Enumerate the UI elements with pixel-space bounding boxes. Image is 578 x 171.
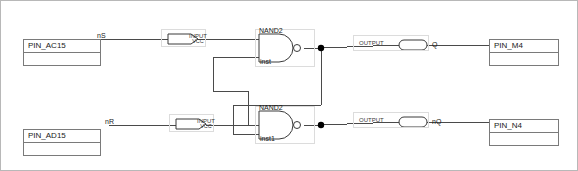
input-port-nr-default: VCC: [191, 124, 221, 130]
net-label-nq[interactable]: nQ: [432, 118, 441, 126]
pin-box-m4-label: PIN_M4: [490, 40, 558, 53]
pin-box-ad15-label: PIN_AD15: [24, 130, 100, 143]
nand-gate-lower-instance: inst1: [260, 135, 275, 143]
nand-gate-upper-instance: inst: [260, 58, 271, 66]
schematic-canvas[interactable]: PIN_AC15 PIN_AD15 PIN_M4 PIN_N4 nS nR Q …: [0, 0, 578, 171]
nand-gate-upper-type: NAND2: [259, 27, 283, 35]
pin-box-ac15-body: [24, 53, 100, 66]
pin-box-m4[interactable]: PIN_M4: [489, 39, 559, 66]
pin-box-n4-body: [490, 133, 558, 146]
output-port-nq-text: OUTPUT: [359, 117, 399, 123]
junction-q-dot: [318, 45, 324, 51]
pin-box-ad15-body: [24, 143, 100, 156]
junction-nq-dot: [318, 122, 324, 128]
pin-box-m4-body: [490, 53, 558, 66]
pin-box-n4-label: PIN_N4: [490, 120, 558, 133]
net-label-q[interactable]: Q: [432, 41, 437, 49]
net-label-ns[interactable]: nS: [97, 32, 106, 40]
output-port-q-text: OUTPUT: [359, 40, 399, 46]
input-port-ns-text: INPUT VCC: [183, 33, 213, 45]
input-port-ns-default: VCC: [183, 39, 213, 45]
net-label-nr[interactable]: nR: [105, 118, 114, 126]
pin-box-ac15-label: PIN_AC15: [24, 40, 100, 53]
pin-box-n4[interactable]: PIN_N4: [489, 119, 559, 146]
pin-box-ad15[interactable]: PIN_AD15: [23, 129, 101, 156]
nand-gate-lower-type: NAND2: [259, 104, 283, 112]
input-port-nr-text: INPUT VCC: [191, 118, 221, 130]
pin-box-ac15[interactable]: PIN_AC15: [23, 39, 101, 66]
junction-layer: [318, 45, 324, 128]
